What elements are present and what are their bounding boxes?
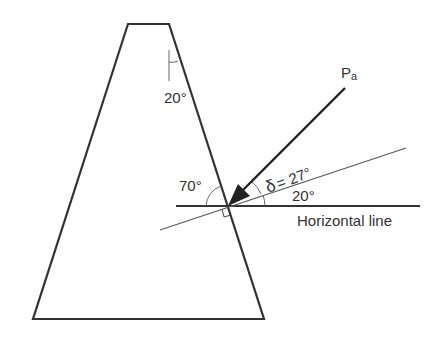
horizontal-line-label: Horizontal line [297, 212, 392, 229]
top-angle-label: 20° [164, 89, 187, 106]
incline-angle-arc [263, 195, 265, 206]
wall-diagram: 20° Horizontal line 70° Pa δ= 27° 20° [0, 0, 438, 342]
top-angle-arc [169, 61, 178, 62]
wall-angle-arc [206, 186, 221, 206]
force-label: Pa [341, 64, 358, 82]
incline-angle-label: 20° [292, 187, 315, 204]
delta-arc [252, 182, 261, 194]
retaining-wall [33, 24, 264, 319]
wall-angle-label: 70° [179, 177, 202, 194]
